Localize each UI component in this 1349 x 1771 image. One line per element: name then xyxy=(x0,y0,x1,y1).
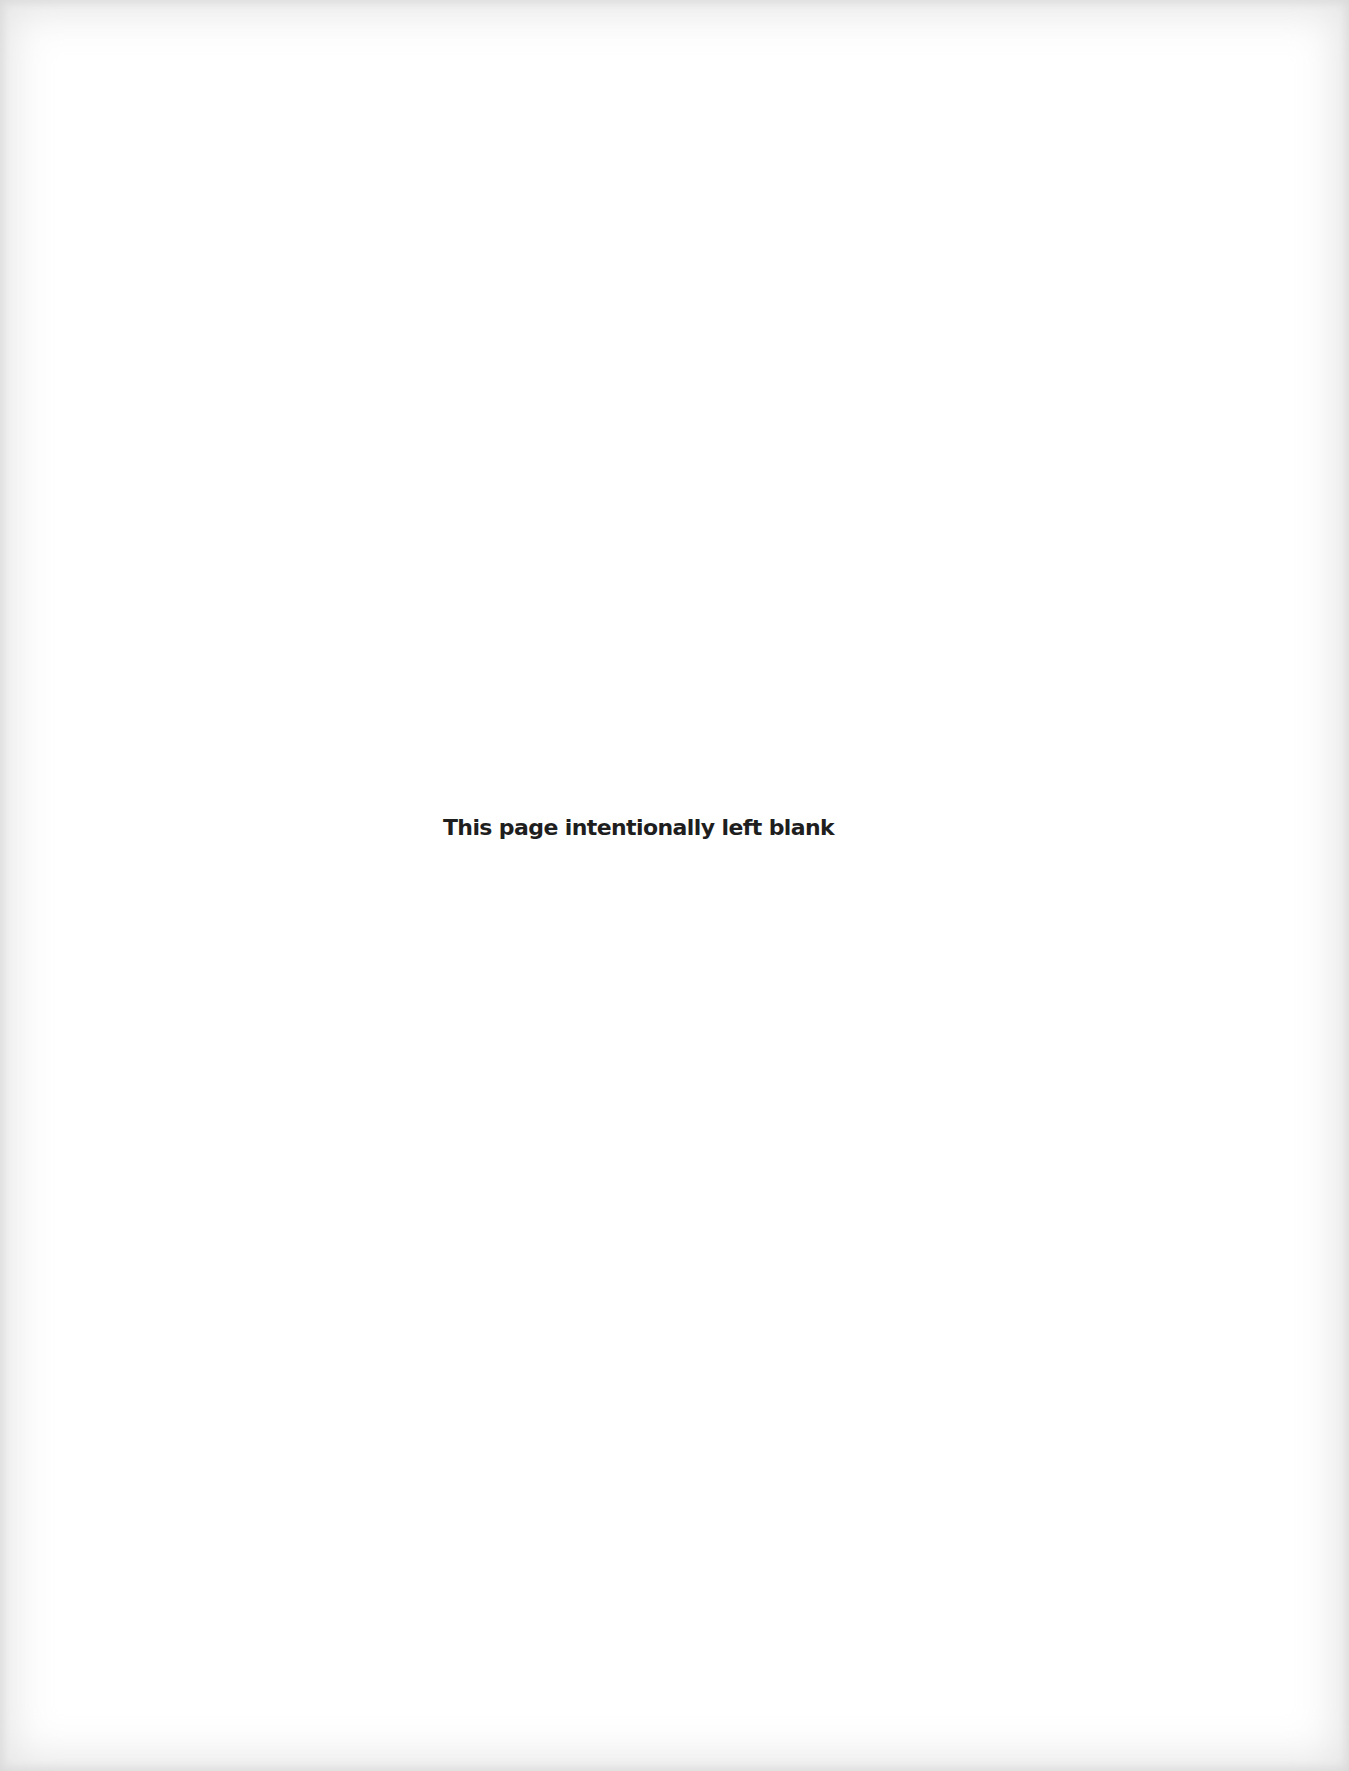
document-page: This page intentionally left blank xyxy=(0,0,1349,1771)
blank-page-notice: This page intentionally left blank xyxy=(0,813,1349,843)
